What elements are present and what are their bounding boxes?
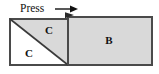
region-c-upper-label: C [45, 24, 53, 36]
press-label: Press [20, 2, 45, 14]
region-c-lower-label: C [25, 47, 33, 59]
press-arrow-head [70, 6, 78, 13]
press-diagram-svg: Press C C B [0, 0, 159, 74]
figure-container: Press C C B [0, 0, 159, 74]
region-b-label: B [105, 34, 113, 46]
